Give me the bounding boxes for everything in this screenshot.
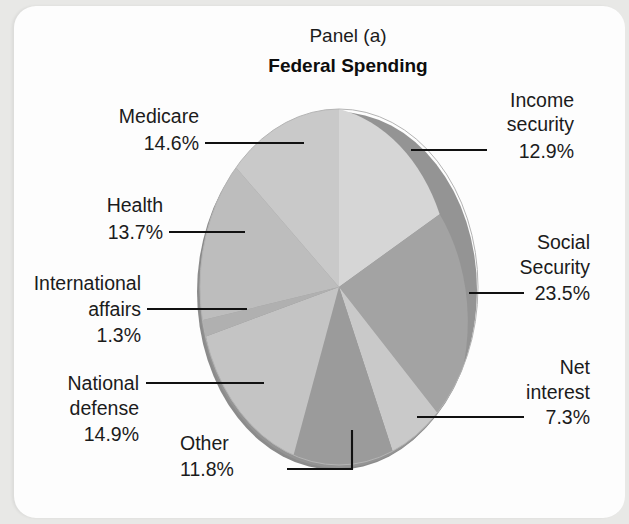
label-medicare: Medicare 14.6% xyxy=(119,105,199,154)
label-social-security-value: 23.5% xyxy=(535,282,590,304)
label-national-defense: National defense 14.9% xyxy=(67,372,139,445)
label-net-interest: Net interest 7.3% xyxy=(526,356,591,428)
label-national-defense-line1: National xyxy=(67,372,139,394)
label-international-affairs-line2: affairs xyxy=(88,298,141,320)
label-other-value: 11.8% xyxy=(180,458,234,480)
label-international-affairs-value: 1.3% xyxy=(97,324,141,346)
label-medicare-value: 14.6% xyxy=(144,132,199,154)
label-health: Health 13.7% xyxy=(107,194,163,243)
panel-label: Panel (a) xyxy=(309,25,386,46)
label-health-line1: Health xyxy=(107,194,163,216)
label-income-security: Income security 12.9% xyxy=(507,89,574,162)
label-income-security-line1: Income xyxy=(510,89,574,111)
label-social-security: Social Security 23.5% xyxy=(520,231,591,304)
label-income-security-value: 12.9% xyxy=(519,140,574,162)
label-international-affairs: International affairs 1.3% xyxy=(34,272,142,346)
label-net-interest-line2: interest xyxy=(526,381,591,403)
label-national-defense-line2: defense xyxy=(70,397,139,419)
pie-chart-figure: Panel (a) Federal Spending xyxy=(0,0,629,524)
label-net-interest-value: 7.3% xyxy=(546,406,590,428)
label-net-interest-line1: Net xyxy=(560,356,591,378)
label-national-defense-value: 14.9% xyxy=(84,423,139,445)
label-social-security-line2: Security xyxy=(520,256,591,278)
label-international-affairs-line1: International xyxy=(34,272,141,294)
label-other: Other 11.8% xyxy=(180,432,234,480)
label-income-security-line2: security xyxy=(507,113,574,135)
label-social-security-line1: Social xyxy=(537,231,590,253)
label-health-value: 13.7% xyxy=(108,221,163,243)
label-medicare-line1: Medicare xyxy=(119,105,199,127)
label-other-line1: Other xyxy=(180,432,229,454)
chart-title: Federal Spending xyxy=(268,55,427,76)
